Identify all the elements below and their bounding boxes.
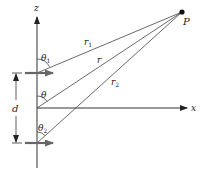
line-r1 <box>37 12 182 73</box>
line-r <box>37 12 182 108</box>
line-r2 <box>37 12 182 143</box>
z-axis-label: z <box>33 3 39 13</box>
point-p <box>179 9 184 14</box>
r1-label: r1 <box>84 37 92 48</box>
r-label: r <box>97 55 102 65</box>
separation-label: d <box>12 103 18 114</box>
r2-label: r2 <box>111 77 119 88</box>
x-axis-label: x <box>191 103 196 113</box>
theta-label: θ <box>41 90 47 100</box>
theta1-label: θ1 <box>41 53 50 64</box>
theta2-label: θ2 <box>38 123 47 134</box>
dipole-diagram: z x P r1 r r2 θ1 θ θ2 d <box>0 0 209 174</box>
point-p-label: P <box>182 16 190 27</box>
